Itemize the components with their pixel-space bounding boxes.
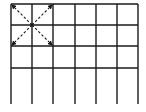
vertical-grid-lines [11, 4, 138, 104]
diagonal-arrow-to-bottom-right [32, 25, 52, 45]
diagonal-arrow-to-top-left [12, 5, 32, 25]
grid-diagram [0, 0, 146, 112]
diagonal-arrow-to-top-right [32, 5, 52, 25]
diagonal-arrow-to-bottom-left [12, 25, 32, 45]
center-point [30, 23, 33, 26]
